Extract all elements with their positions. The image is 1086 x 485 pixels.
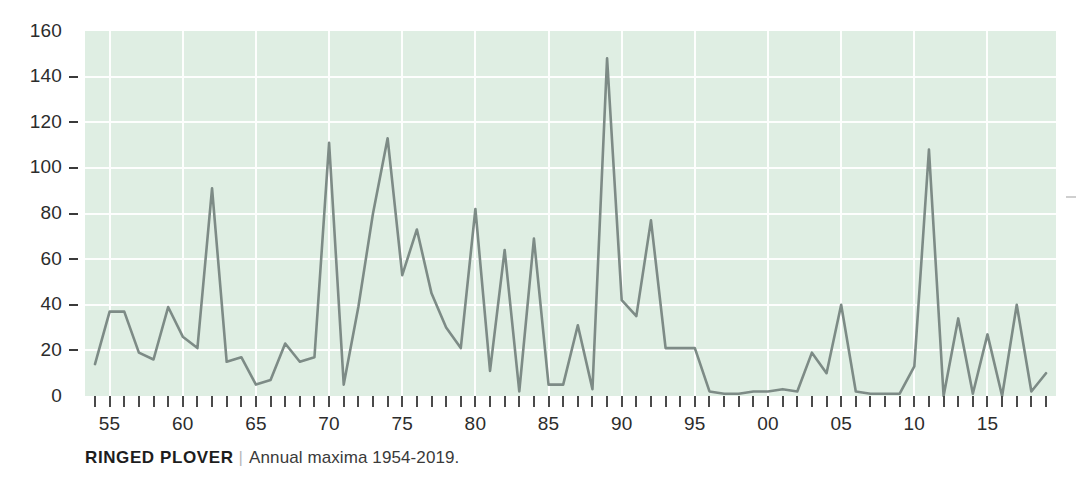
x-axis-tick-mark <box>109 396 111 407</box>
x-axis-tick-label: 90 <box>611 413 633 435</box>
page-edge-mark <box>1066 196 1076 198</box>
x-axis-tick-mark <box>255 396 257 407</box>
x-axis-tick-mark <box>401 396 403 407</box>
x-axis-tick-mark <box>284 396 286 407</box>
x-axis-tick-label: 95 <box>684 413 706 435</box>
x-axis-tick-label: 00 <box>757 413 779 435</box>
x-axis-tick-mark <box>708 396 710 407</box>
x-axis-tick-label: 10 <box>904 413 926 435</box>
x-axis-tick-mark <box>504 396 506 407</box>
y-axis-tick-label: 60 <box>40 249 62 268</box>
x-axis-tick-mark <box>855 396 857 407</box>
y-axis-tick-label: 80 <box>40 203 62 222</box>
x-axis-tick-mark <box>313 396 315 407</box>
y-axis-tick-mark <box>69 167 78 169</box>
x-axis-tick-mark <box>562 396 564 407</box>
x-axis-tick-mark <box>357 396 359 407</box>
x-axis-tick-mark <box>577 396 579 407</box>
x-axis-tick-mark <box>445 396 447 407</box>
x-axis-tick-mark <box>1001 396 1003 407</box>
x-axis-tick-mark <box>167 396 169 407</box>
x-axis-tick-mark <box>431 396 433 407</box>
x-axis-tick-mark <box>548 396 550 407</box>
x-axis-tick-mark <box>182 396 184 407</box>
x-axis-tick-mark <box>416 396 418 407</box>
x-axis-tick-mark <box>343 396 345 407</box>
x-axis-tick-mark <box>196 396 198 407</box>
x-axis-tick-mark <box>1030 396 1032 407</box>
x-axis-tick-label: 15 <box>977 413 999 435</box>
x-axis-tick-mark <box>226 396 228 407</box>
x-axis-tick-mark <box>665 396 667 407</box>
data-series-line <box>85 31 1056 396</box>
x-axis-tick-mark <box>328 396 330 407</box>
x-axis-tick-mark <box>211 396 213 407</box>
x-axis-tick-mark <box>840 396 842 407</box>
x-axis-tick-mark <box>943 396 945 407</box>
x-axis-tick-mark <box>621 396 623 407</box>
x-axis-tick-mark <box>299 396 301 407</box>
caption-subtitle: Annual maxima 1954-2019. <box>249 448 459 467</box>
x-axis-tick-mark <box>372 396 374 407</box>
x-axis-tick-mark <box>972 396 974 407</box>
x-axis-tick-mark <box>796 396 798 407</box>
x-axis-tick-mark <box>533 396 535 407</box>
y-axis-tick-label: 160 <box>30 21 62 40</box>
x-axis-tick-label: 80 <box>465 413 487 435</box>
x-axis-tick-mark <box>811 396 813 407</box>
x-axis-tick-mark <box>153 396 155 407</box>
y-axis: 020406080100120140160 <box>0 31 85 396</box>
x-axis-tick-mark <box>1016 396 1018 407</box>
x-axis-tick-mark <box>270 396 272 407</box>
y-axis-tick-label: 40 <box>40 294 62 313</box>
chart-caption: RINGED PLOVER|Annual maxima 1954-2019. <box>85 448 459 468</box>
y-axis-tick-label: 0 <box>51 386 62 405</box>
x-axis-tick-mark <box>138 396 140 407</box>
y-axis-tick-mark <box>69 304 78 306</box>
x-axis-tick-mark <box>240 396 242 407</box>
x-axis: 55606570758085909500051015 <box>85 396 1056 441</box>
x-axis-tick-mark <box>884 396 886 407</box>
x-axis-tick-label: 55 <box>99 413 121 435</box>
x-axis-tick-mark <box>460 396 462 407</box>
y-axis-tick-label: 100 <box>30 157 62 176</box>
x-axis-tick-mark <box>752 396 754 407</box>
y-axis-tick-mark <box>69 76 78 78</box>
y-axis-tick-label: 140 <box>30 66 62 85</box>
x-axis-tick-label: 05 <box>830 413 852 435</box>
x-axis-tick-mark <box>723 396 725 407</box>
x-axis-tick-mark <box>94 396 96 407</box>
x-axis-tick-mark <box>986 396 988 407</box>
x-axis-tick-mark <box>738 396 740 407</box>
x-axis-tick-mark <box>635 396 637 407</box>
x-axis-tick-mark <box>899 396 901 407</box>
x-axis-tick-mark <box>518 396 520 407</box>
x-axis-tick-mark <box>123 396 125 407</box>
x-axis-tick-label: 65 <box>245 413 267 435</box>
caption-separator: | <box>239 448 244 467</box>
y-axis-tick-label: 120 <box>30 112 62 131</box>
caption-species: RINGED PLOVER <box>85 448 234 467</box>
x-axis-tick-mark <box>782 396 784 407</box>
x-axis-tick-label: 60 <box>172 413 194 435</box>
x-axis-tick-mark <box>694 396 696 407</box>
x-axis-tick-mark <box>928 396 930 407</box>
x-axis-tick-label: 70 <box>318 413 340 435</box>
x-axis-tick-mark <box>957 396 959 407</box>
x-axis-tick-mark <box>767 396 769 407</box>
x-axis-tick-mark <box>387 396 389 407</box>
x-axis-tick-mark <box>679 396 681 407</box>
chart-figure: 020406080100120140160 556065707580859095… <box>0 0 1086 485</box>
x-axis-tick-mark <box>474 396 476 407</box>
y-axis-tick-mark <box>69 213 78 215</box>
y-axis-tick-mark <box>69 349 78 351</box>
plot-area <box>85 31 1056 396</box>
x-axis-tick-label: 85 <box>538 413 560 435</box>
x-axis-tick-mark <box>591 396 593 407</box>
x-axis-tick-mark <box>1045 396 1047 407</box>
x-axis-tick-label: 75 <box>391 413 413 435</box>
x-axis-tick-mark <box>606 396 608 407</box>
y-axis-tick-label: 20 <box>40 340 62 359</box>
x-axis-tick-mark <box>869 396 871 407</box>
x-axis-tick-mark <box>913 396 915 407</box>
